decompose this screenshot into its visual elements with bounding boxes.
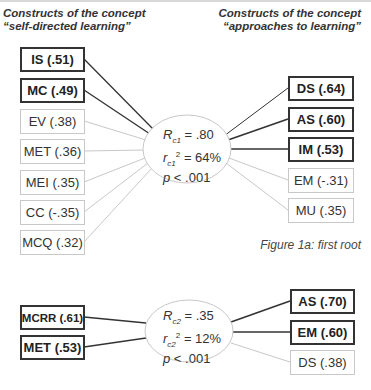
root2-canonical-r: Rc2 = .35: [163, 309, 221, 329]
connector-mei: [84, 158, 145, 182]
construct-box-as-root2: AS (.70): [290, 289, 355, 314]
connector-cc: [84, 163, 148, 212]
root1-p-value: p < .001: [163, 171, 221, 185]
connector-met2: [84, 338, 146, 347]
root2-r-squared: rc22 = 12%: [163, 329, 221, 352]
connector-is: [84, 59, 154, 130]
connector-ev: [84, 121, 146, 140]
connector-mu: [226, 163, 288, 210]
construct-box-em: EM (-.31): [288, 168, 354, 193]
root1-r-squared: rc12 = 64%: [163, 148, 221, 171]
construct-box-mcq: MCQ (.32): [20, 230, 85, 255]
connector-ds: [224, 88, 288, 136]
root1-stats: Rc1 = .80 rc12 = 64% p < .001: [163, 128, 221, 185]
construct-box-im: IM (.53): [288, 137, 354, 162]
root1-canonical-r: Rc1 = .80: [163, 128, 221, 148]
root2-stats: Rc2 = .35 rc22 = 12% p < .001: [163, 309, 221, 366]
construct-box-ds-root2: DS (.38): [290, 350, 355, 375]
construct-box-is: IS (.51): [20, 47, 85, 72]
connector-mcq: [84, 168, 152, 242]
connector-met: [84, 150, 143, 151]
construct-box-ev: EV (.38): [20, 109, 85, 134]
construct-box-cc: CC (-.35): [20, 200, 85, 225]
construct-box-mc: MC (.49): [20, 78, 85, 103]
connector-as: [228, 119, 288, 140]
construct-box-ds: DS (.64): [288, 76, 354, 101]
construct-box-em-root2: EM (.60): [290, 320, 355, 345]
construct-box-mei: MEI (.35): [20, 170, 85, 195]
connector-mc: [84, 90, 150, 134]
connector-ds2: [231, 343, 290, 362]
root2-p-value: p < .001: [163, 352, 221, 366]
construct-box-as: AS (.60): [288, 107, 354, 132]
construct-box-mu: MU (.35): [288, 198, 354, 223]
figure-caption: Figure 1a: first root: [260, 238, 361, 252]
connector-mcrr: [84, 317, 146, 323]
connector-as2: [231, 301, 290, 322]
connector-em: [229, 158, 288, 180]
construct-box-met-root2: MET (.53): [20, 335, 85, 360]
construct-box-mcrr: MCRR (.61): [20, 305, 85, 330]
construct-box-met: MET (.36): [20, 139, 85, 164]
